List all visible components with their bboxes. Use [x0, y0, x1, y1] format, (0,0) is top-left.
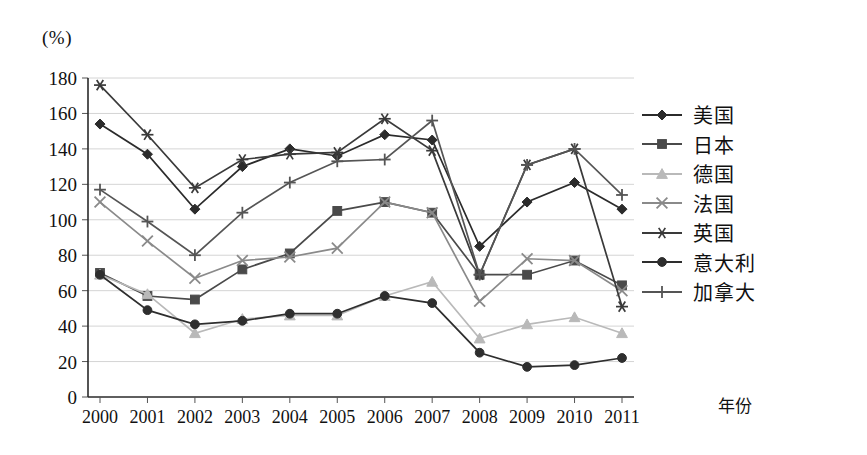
x-tick-label: 2004: [272, 407, 308, 427]
data-point-plus: [284, 177, 296, 189]
series-line: [100, 202, 622, 301]
data-point-circle: [285, 309, 294, 318]
data-point-diamond: [427, 135, 437, 145]
series-4: [94, 80, 628, 312]
legend-marker-square-icon: [640, 135, 684, 153]
legend-label-0: 美国: [693, 100, 735, 129]
data-point-diamond: [657, 110, 667, 120]
series-line: [100, 124, 622, 246]
x-tick-label: 2010: [557, 407, 593, 427]
legend-label-3: 法国: [693, 189, 735, 218]
data-point-circle: [428, 299, 437, 308]
y-tick-label: 100: [49, 210, 78, 231]
data-point-circle: [143, 306, 152, 315]
data-point-triangle: [427, 276, 438, 286]
series-0: [95, 119, 627, 251]
data-point-plus: [521, 159, 533, 171]
data-point-x: [142, 236, 153, 247]
data-point-circle: [658, 258, 667, 267]
x-tick-label: 2006: [367, 407, 403, 427]
data-point-diamond: [95, 119, 105, 129]
series-1: [96, 198, 627, 304]
data-point-asterisk: [616, 301, 628, 311]
data-point-square: [523, 270, 532, 279]
data-point-square: [238, 265, 247, 274]
x-tick-label: 2009: [509, 407, 545, 427]
legend-marker-circle-icon: [640, 253, 684, 271]
series-line: [100, 202, 622, 299]
legend-label-1: 日本: [693, 130, 735, 159]
y-tick-label: 60: [58, 281, 77, 302]
data-point-plus: [94, 184, 106, 196]
data-point-circle: [333, 309, 342, 318]
data-point-asterisk: [656, 228, 668, 238]
data-point-circle: [96, 270, 105, 279]
legend-label-6: 加拿大: [693, 277, 756, 306]
legend-label-5: 意大利: [693, 248, 756, 277]
x-tick-label: 2008: [462, 407, 498, 427]
y-tick-label: 120: [49, 174, 78, 195]
chart-legend: 美国日本德国法国英国意大利加拿大: [640, 100, 850, 307]
data-point-diamond: [380, 130, 390, 140]
y-tick-label: 140: [49, 139, 78, 160]
legend-item-0[interactable]: 美国: [640, 100, 850, 130]
series-6: [94, 115, 628, 281]
data-point-square: [658, 140, 667, 149]
data-point-x: [95, 197, 106, 208]
y-tick-label: 160: [49, 103, 78, 124]
data-point-x: [474, 296, 485, 307]
legend-marker-diamond-icon: [640, 106, 684, 124]
data-point-circle: [238, 316, 247, 325]
legend-marker-asterisk-icon: [640, 224, 684, 242]
data-point-diamond: [285, 144, 295, 154]
data-point-plus: [142, 216, 154, 228]
data-point-circle: [570, 361, 579, 370]
data-point-circle: [475, 348, 484, 357]
x-tick-label: 2011: [604, 407, 639, 427]
legend-item-3[interactable]: 法国: [640, 189, 850, 219]
series-line: [100, 121, 622, 275]
data-point-x: [190, 273, 201, 284]
series-line: [100, 275, 622, 339]
data-point-square: [333, 207, 342, 216]
y-tick-label: 20: [58, 352, 77, 373]
data-point-triangle: [569, 312, 580, 322]
legend-item-4[interactable]: 英国: [640, 218, 850, 248]
y-tick-label: 40: [58, 316, 77, 337]
x-tick-label: 2003: [224, 407, 260, 427]
x-tick-label: 2002: [177, 407, 213, 427]
y-tick-label: 0: [68, 387, 78, 408]
legend-marker-x-icon: [640, 194, 684, 212]
legend-marker-triangle-icon: [640, 165, 684, 183]
data-point-circle: [523, 362, 532, 371]
legend-item-6[interactable]: 加拿大: [640, 277, 850, 307]
series-3: [95, 197, 628, 307]
y-tick-label: 180: [49, 68, 78, 89]
data-point-circle: [191, 320, 200, 329]
data-point-diamond: [570, 178, 580, 188]
line-chart: (%) 年份 020406080100120140160180200020012…: [0, 0, 867, 455]
data-point-circle: [380, 292, 389, 301]
y-tick-label: 80: [58, 245, 77, 266]
data-point-plus: [656, 286, 668, 298]
legend-marker-plus-icon: [640, 283, 684, 301]
data-point-square: [191, 295, 200, 304]
legend-label-2: 德国: [693, 159, 735, 188]
data-point-diamond: [617, 204, 627, 214]
series-line: [100, 275, 622, 367]
data-point-circle: [618, 354, 627, 363]
legend-item-5[interactable]: 意大利: [640, 248, 850, 278]
x-tick-label: 2005: [319, 407, 355, 427]
x-tick-label: 2007: [414, 407, 450, 427]
x-tick-label: 2000: [82, 407, 118, 427]
series-2: [95, 269, 628, 343]
legend-item-1[interactable]: 日本: [640, 130, 850, 160]
x-tick-label: 2001: [129, 407, 165, 427]
legend-item-2[interactable]: 德国: [640, 159, 850, 189]
legend-label-4: 英国: [693, 218, 735, 247]
